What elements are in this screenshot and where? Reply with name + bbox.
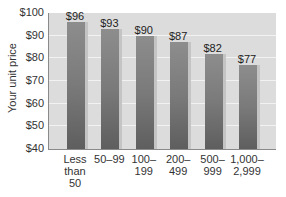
bar-value-label: $93 <box>91 17 127 29</box>
bar-value-label: $82 <box>195 42 231 54</box>
bar <box>67 22 85 149</box>
y-tick-label: $100 <box>0 6 44 18</box>
bar-value-label: $77 <box>229 53 265 65</box>
y-tick-label: $50 <box>0 119 44 131</box>
x-tick-label: 1,000– 2,999 <box>225 153 269 177</box>
y-tick-label: $40 <box>0 142 44 154</box>
bar <box>205 54 223 149</box>
y-tick-label: $90 <box>0 29 44 41</box>
y-tick-label: $70 <box>0 74 44 86</box>
bar-value-label: $90 <box>126 24 162 36</box>
y-tick-label: $60 <box>0 97 44 109</box>
bar <box>170 42 188 149</box>
y-tick-label: $80 <box>0 51 44 63</box>
bar-value-label: $96 <box>57 10 93 22</box>
bar <box>239 65 257 149</box>
bar <box>101 29 119 149</box>
bar <box>136 36 154 149</box>
bar-value-label: $87 <box>160 30 196 42</box>
